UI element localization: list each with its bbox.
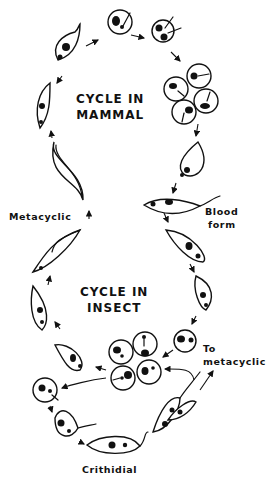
cell-cluster-mammal <box>164 64 218 124</box>
amastigote-cell-top <box>108 10 132 34</box>
insect-title-line1: CYCLE IN <box>80 284 148 300</box>
insect-title-line2: INSECT <box>80 300 148 316</box>
insect-cycle-title: CYCLE IN INSECT <box>80 284 148 316</box>
mammal-title-line2: MAMMAL <box>76 107 144 123</box>
to-metacyclic-line1: To <box>203 342 266 355</box>
dividing-crithidial <box>153 372 200 432</box>
right-insect-cell <box>195 276 211 310</box>
cell-cluster-insect <box>109 332 161 390</box>
crithidial-early <box>55 411 96 436</box>
promastigote-left-mid <box>37 83 50 128</box>
crithidial-cell <box>87 432 148 453</box>
mammal-title-line1: CYCLE IN <box>76 91 144 107</box>
to-metacyclic-line2: metacyclic <box>203 355 266 368</box>
crithidial-label: Crithidial <box>82 463 137 476</box>
slender-cell-right <box>166 230 205 262</box>
dividing-cell <box>152 17 181 42</box>
mammal-cycle-title: CYCLE IN MAMMAL <box>76 91 144 123</box>
to-metacyclic-label: To metacyclic <box>203 342 266 368</box>
metacyclic-cell <box>33 230 80 272</box>
round-cell-right-insect <box>174 330 196 352</box>
trypomastigote-left <box>53 142 83 200</box>
promastigote-right-1 <box>180 142 204 177</box>
blood-form-label: Blood form <box>205 205 238 231</box>
rounding-cell-left <box>55 345 82 371</box>
metacyclic-label: Metacyclic <box>9 210 71 223</box>
blood-form-line2: form <box>205 218 238 231</box>
round-cell-lower-left <box>33 378 58 402</box>
epimastigote-left <box>31 286 46 330</box>
promastigote-left-top <box>56 24 80 60</box>
life-cycle-diagram <box>0 0 271 482</box>
blood-form-line1: Blood <box>205 205 238 218</box>
